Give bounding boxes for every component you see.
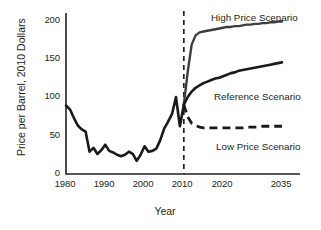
x-tick-1990: 1990 [87, 179, 121, 189]
oil-price-scenarios-chart: 200 150 100 50 0 1980 1990 2000 2010 202… [0, 0, 321, 230]
x-axis-title: Year [120, 205, 210, 217]
x-tick-2020: 2020 [205, 179, 239, 189]
y-axis-title: Price per Barrel, 2010 Dollars [15, 26, 27, 156]
x-tick-1980: 1980 [48, 179, 82, 189]
label-low-price-scenario: Low Price Scenario [216, 141, 300, 152]
y-tick-50: 50 [36, 130, 60, 140]
series-historical [66, 97, 184, 161]
y-tick-150: 150 [36, 53, 60, 63]
y-tick-0: 0 [36, 168, 60, 178]
label-reference-scenario: Reference Scenario [214, 91, 301, 102]
label-high-price-scenario: High Price Scenario [211, 12, 298, 23]
series-low-price [184, 105, 282, 128]
y-tick-100: 100 [36, 91, 60, 101]
chart-canvas [0, 0, 321, 230]
x-tick-2000: 2000 [126, 179, 160, 189]
y-tick-200: 200 [36, 15, 60, 25]
x-tick-2035: 2035 [264, 179, 298, 189]
x-tick-2010: 2010 [165, 179, 199, 189]
